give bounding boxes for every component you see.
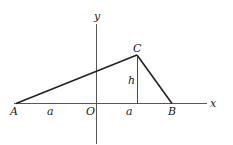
vertex-c-label: C — [133, 42, 142, 55]
height-label: h — [128, 74, 135, 87]
y-axis-label: y — [93, 10, 101, 23]
origin-label: O — [86, 105, 95, 118]
triangle-diagram: y x O A B C a a h — [0, 0, 233, 145]
vertex-a-label: A — [9, 105, 18, 118]
right-length-label: a — [126, 105, 133, 118]
x-axis-label: x — [210, 97, 217, 110]
diagram-svg: y x O A B C a a h — [0, 0, 233, 145]
vertex-b-label: B — [167, 105, 176, 118]
side-cb — [137, 55, 172, 104]
side-ac — [16, 55, 137, 104]
left-length-label: a — [47, 105, 54, 118]
